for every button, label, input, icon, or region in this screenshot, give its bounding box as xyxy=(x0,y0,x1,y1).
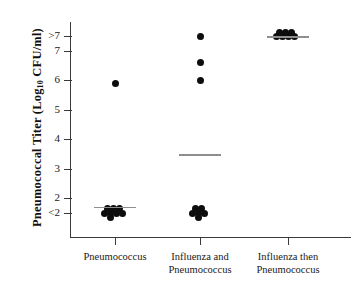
x-axis-group-label-line: Influenza and xyxy=(150,250,250,263)
data-point xyxy=(112,80,119,87)
median-line xyxy=(179,154,221,156)
y-tick-mark xyxy=(64,36,72,37)
y-tick-mark xyxy=(64,51,72,52)
y-tick-mark xyxy=(64,139,72,140)
y-tick-label: 7 xyxy=(26,44,60,56)
data-point xyxy=(197,33,204,40)
x-axis-group-label-line: Influenza then xyxy=(238,250,338,263)
y-tick-label: >7 xyxy=(26,29,60,41)
y-tick-mark xyxy=(64,198,72,199)
data-point xyxy=(197,59,204,66)
x-tick-mark xyxy=(115,237,116,245)
median-line xyxy=(267,36,309,38)
data-point xyxy=(195,214,202,221)
x-tick-mark xyxy=(200,237,201,245)
x-axis-group-label: Influenza thenPneumococcus xyxy=(238,250,338,276)
y-tick-label: 5 xyxy=(26,103,60,115)
y-tick-mark xyxy=(64,110,72,111)
data-point xyxy=(107,214,114,221)
y-axis-line xyxy=(70,22,71,238)
x-axis-group-label-line: Pneumococcus xyxy=(238,263,338,276)
y-tick-label: 2 xyxy=(26,191,60,203)
y-tick-label: <2 xyxy=(26,206,60,218)
data-point xyxy=(198,205,205,212)
x-axis-line xyxy=(70,237,351,238)
x-axis-group-label: Influenza andPneumococcus xyxy=(150,250,250,276)
y-tick-label: 3 xyxy=(26,162,60,174)
data-point xyxy=(288,29,295,36)
y-tick-mark xyxy=(64,80,72,81)
y-tick-label: 4 xyxy=(26,132,60,144)
pneumococcal-titer-scatter-chart: Pneumococcal Titer (Log10 CFU/ml) >77654… xyxy=(0,0,359,283)
y-tick-mark xyxy=(64,213,72,214)
median-line xyxy=(94,207,136,209)
y-tick-mark xyxy=(64,169,72,170)
x-tick-mark xyxy=(288,237,289,245)
data-point xyxy=(197,77,204,84)
y-tick-label: 6 xyxy=(26,73,60,85)
x-axis-group-label-line: Pneumococcus xyxy=(150,263,250,276)
